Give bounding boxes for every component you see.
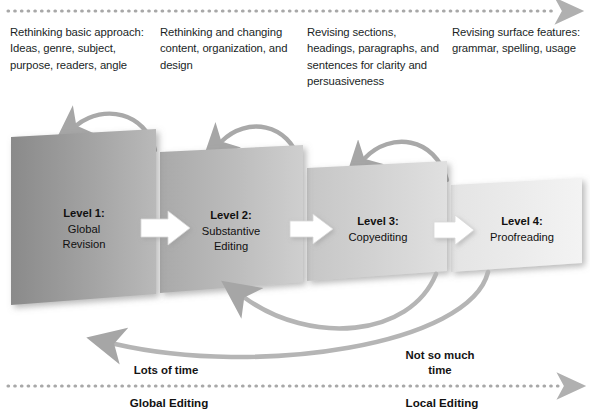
time-label-right-line2: time	[382, 363, 498, 378]
column-text-4: Revising surface features: grammar, spel…	[452, 24, 580, 57]
level-3-heading: Level 3:	[320, 214, 436, 230]
level-4-line1: Proofreading	[465, 230, 579, 246]
column-text-2: Rethinking and changing content, organiz…	[160, 24, 303, 73]
column-text-1: Rethinking basic approach: Ideas, genre,…	[10, 24, 160, 73]
level-1-line1: Global	[25, 222, 143, 238]
level-4-heading: Level 4:	[465, 214, 579, 230]
column-text-3: Revising sections, headings, paragraphs,…	[307, 24, 447, 90]
axis-label-global-editing: Global Editing	[104, 396, 234, 409]
level-2-heading: Level 2:	[172, 208, 290, 224]
level-1-label: Level 1: Global Revision	[25, 206, 143, 253]
time-label-left-line1: Lots of time	[106, 363, 226, 378]
level-2-line1: Substantive	[172, 224, 290, 240]
time-label-right-line1: Not so much	[382, 348, 498, 363]
level-2-label: Level 2: Substantive Editing	[172, 208, 290, 255]
level-3-label: Level 3: Copyediting	[320, 214, 436, 245]
time-label-left: Lots of time	[106, 363, 226, 378]
revision-levels-diagram: Rethinking basic approach: Ideas, genre,…	[0, 0, 590, 418]
axis-label-local-editing: Local Editing	[379, 396, 505, 409]
level-1-heading: Level 1:	[25, 206, 143, 222]
time-label-right: Not so much time	[382, 348, 498, 378]
level-2-line2: Editing	[172, 239, 290, 255]
level-4-label: Level 4: Proofreading	[465, 214, 579, 245]
level-1-line2: Revision	[25, 237, 143, 253]
level-3-line1: Copyediting	[320, 230, 436, 246]
